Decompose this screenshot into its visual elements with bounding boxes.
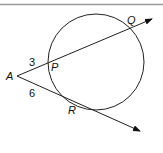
point-label-Q: Q <box>127 14 136 26</box>
segment-length-AP: 3 <box>29 56 35 68</box>
segment-length-AR: 6 <box>29 87 35 99</box>
secant-tangent-diagram: A P Q R 3 6 <box>0 0 163 153</box>
point-label-R: R <box>68 104 76 116</box>
tangent-ray-AR <box>17 76 140 131</box>
point-label-P: P <box>51 61 59 73</box>
point-label-A: A <box>5 70 13 82</box>
secant-ray-AQ <box>17 19 152 76</box>
